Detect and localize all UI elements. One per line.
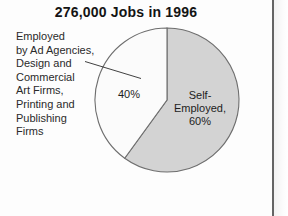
pie-slice-label-self-employed: Self- Employed, 60% (166, 89, 234, 129)
callout-label-line: Printing and (16, 98, 96, 112)
pie-slice-label-line: Employed, (166, 102, 234, 115)
chart-page: 276,000 Jobs in 1996 Employed by Ad Agen… (0, 0, 288, 216)
callout-label-line: by Ad Agencies, (16, 44, 96, 58)
pie-slice-label-line: Self- (166, 89, 234, 102)
callout-label-line: Firms (16, 125, 96, 139)
callout-label-employed-by-firms: Employed by Ad Agencies, Design and Comm… (16, 30, 96, 139)
page-edge-rule (272, 0, 274, 216)
callout-label-line: Commercial (16, 71, 96, 85)
pie-slice-label-employed-by-firms: 40% (104, 88, 154, 101)
page-margin-gutter (274, 0, 288, 216)
pie-slice-value-other: 40% (104, 88, 154, 101)
pie-slice-value-self-employed: 60% (166, 115, 234, 128)
callout-label-line: Employed (16, 30, 96, 44)
callout-label-line: Art Firms, (16, 84, 96, 98)
callout-label-line: Design and (16, 57, 96, 71)
callout-label-line: Publishing (16, 112, 96, 126)
